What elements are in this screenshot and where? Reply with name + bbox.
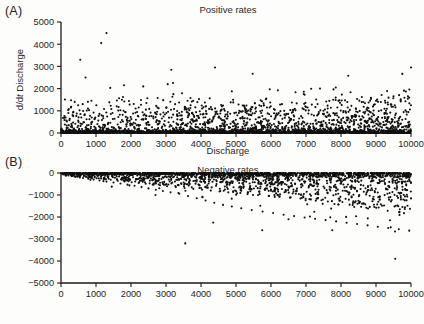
data-point — [367, 217, 369, 219]
data-point — [276, 129, 278, 131]
data-point — [91, 173, 93, 175]
data-point — [323, 128, 325, 130]
data-point — [384, 102, 386, 104]
data-point — [374, 125, 376, 127]
data-point — [410, 190, 412, 192]
data-point — [328, 119, 330, 121]
data-point — [221, 119, 223, 121]
data-point — [204, 102, 206, 104]
data-point — [403, 111, 405, 113]
data-point — [161, 181, 163, 183]
data-point — [198, 184, 200, 186]
data-point — [87, 101, 89, 103]
data-point — [206, 113, 208, 115]
data-point — [234, 174, 236, 176]
data-point — [199, 130, 201, 132]
data-point — [394, 231, 396, 233]
data-point — [250, 114, 252, 116]
data-point — [363, 191, 365, 193]
data-point — [189, 126, 191, 128]
data-point — [372, 176, 374, 178]
data-point — [281, 131, 283, 133]
data-point — [158, 172, 160, 174]
data-point — [349, 109, 351, 111]
data-point — [358, 202, 360, 204]
data-point — [369, 130, 371, 132]
data-point — [362, 116, 364, 118]
data-point — [190, 131, 192, 133]
data-point — [352, 204, 354, 206]
data-point — [403, 97, 405, 99]
data-point — [152, 172, 154, 174]
data-point — [327, 131, 329, 133]
data-point — [79, 59, 81, 61]
data-point — [193, 115, 195, 117]
data-point — [335, 220, 337, 222]
data-point — [298, 123, 300, 125]
data-point — [77, 121, 79, 123]
data-point — [125, 179, 127, 181]
data-point — [112, 172, 114, 174]
data-point — [367, 128, 369, 130]
data-point — [371, 187, 373, 189]
data-point — [172, 121, 174, 123]
data-point — [377, 201, 379, 203]
data-point — [172, 82, 174, 84]
data-point — [356, 223, 358, 225]
data-point — [227, 181, 229, 183]
data-point — [178, 112, 180, 114]
data-point — [112, 181, 114, 183]
data-point — [314, 120, 316, 122]
data-point — [303, 93, 305, 95]
data-point — [205, 199, 207, 201]
data-point — [349, 204, 351, 206]
data-point — [331, 229, 333, 231]
x-tick-label: 0 — [58, 289, 63, 299]
data-point — [284, 117, 286, 119]
data-point — [361, 96, 363, 98]
x-tick-label: 2000 — [121, 289, 141, 299]
data-point — [278, 178, 280, 180]
data-point — [147, 172, 149, 174]
data-point — [184, 173, 186, 175]
data-point — [201, 104, 203, 106]
data-point — [171, 96, 173, 98]
data-point — [338, 200, 340, 202]
data-point — [227, 111, 229, 113]
data-point — [388, 199, 390, 201]
data-point — [199, 123, 201, 125]
data-point — [367, 189, 369, 191]
data-point — [63, 173, 65, 175]
data-point — [297, 172, 299, 174]
data-point — [407, 131, 409, 133]
data-point — [309, 177, 311, 179]
data-point — [249, 108, 251, 110]
data-point — [264, 132, 266, 134]
data-point — [170, 69, 172, 71]
data-point — [188, 131, 190, 133]
data-point — [108, 101, 110, 103]
data-point — [150, 112, 152, 114]
data-point — [280, 184, 282, 186]
data-point — [360, 176, 362, 178]
data-point — [364, 102, 366, 104]
data-point — [290, 182, 292, 184]
data-point — [302, 120, 304, 122]
data-point — [251, 106, 253, 108]
data-point — [408, 121, 410, 123]
data-point — [258, 191, 260, 193]
data-point — [336, 130, 338, 132]
data-point — [158, 187, 160, 189]
data-point — [308, 126, 310, 128]
data-point — [176, 123, 178, 125]
data-point — [254, 181, 256, 183]
data-point — [152, 115, 154, 117]
data-point — [366, 109, 368, 111]
data-point — [212, 181, 214, 183]
data-point — [208, 127, 210, 129]
data-point — [134, 112, 136, 114]
data-point — [187, 195, 189, 197]
data-point — [332, 194, 334, 196]
data-point — [70, 172, 72, 174]
data-point — [372, 198, 374, 200]
